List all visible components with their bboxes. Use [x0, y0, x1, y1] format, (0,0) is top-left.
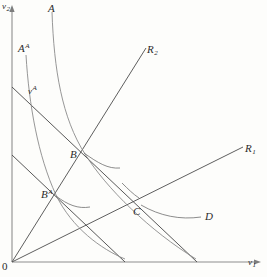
point-b-label: B [70, 149, 77, 160]
economics-diagram: v2 v1 0 A AA vA R2 R1 B BA C D [0, 0, 267, 277]
pointers-group [56, 153, 201, 218]
annotation-d-label: D [205, 211, 213, 222]
y-axis-label-sub: 2 [6, 5, 10, 13]
y-axis-label: v2 [2, 2, 10, 13]
ray-r1-label-text: R [245, 142, 252, 154]
point-c-label-text: C [133, 205, 141, 217]
curve-a-label: A [48, 3, 55, 14]
pointer-C-to-D [141, 205, 201, 218]
ray-R2-line [12, 48, 146, 262]
budget-v-alt-label: vA [28, 85, 37, 96]
curves-group [26, 12, 196, 259]
ray-r1-label: R1 [245, 143, 256, 156]
curve-a-alt-label-text: A [18, 42, 25, 54]
point-b-alt-label-text: B [41, 188, 48, 200]
ray-r2-label-sub: 2 [154, 49, 158, 57]
ray-R1-line [12, 147, 243, 262]
budget-v-alt-label-sup: A [32, 84, 37, 92]
curve-a-label-text: A [48, 2, 55, 14]
curve-a-alt-label-sup: A [25, 42, 30, 50]
ray-r2-label: R2 [147, 44, 158, 57]
x-axis-label: v1 [248, 258, 256, 269]
budget-line-upper [12, 87, 197, 262]
x-axis-label-sub: 1 [252, 261, 256, 269]
curve-a-alt-label: AA [18, 43, 30, 54]
diagram-canvas [0, 0, 267, 277]
annotation-d-label-text: D [205, 210, 213, 222]
pointer-mid-flick [122, 183, 139, 198]
point-b-alt-label-sup: A [48, 188, 53, 196]
point-b-alt-label: BA [41, 189, 53, 200]
rays-group [12, 48, 243, 262]
ray-r1-label-sub: 1 [252, 148, 256, 156]
ray-r2-label-text: R [147, 43, 154, 55]
point-b-label-text: B [70, 148, 77, 160]
budget-lines-group [12, 87, 197, 262]
axes-group [9, 5, 261, 265]
origin-label: 0 [2, 261, 8, 272]
point-c-label: C [133, 206, 141, 217]
